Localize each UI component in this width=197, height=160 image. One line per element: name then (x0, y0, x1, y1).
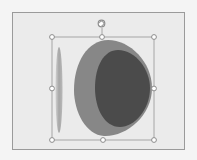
resize-handle-middle-left[interactable] (50, 86, 55, 91)
rotate-icon[interactable] (98, 20, 105, 27)
editor-canvas (0, 0, 197, 160)
thin-ellipse-shape[interactable] (56, 47, 63, 133)
resize-handle-top-middle[interactable] (100, 35, 105, 40)
resize-handle-top-left[interactable] (50, 35, 55, 40)
resize-handle-bottom-right[interactable] (152, 138, 157, 143)
shape-group[interactable] (0, 0, 197, 160)
resize-handle-middle-right[interactable] (152, 86, 157, 91)
resize-handle-bottom-left[interactable] (50, 138, 55, 143)
resize-handle-bottom-middle[interactable] (101, 138, 106, 143)
resize-handle-top-right[interactable] (152, 35, 157, 40)
